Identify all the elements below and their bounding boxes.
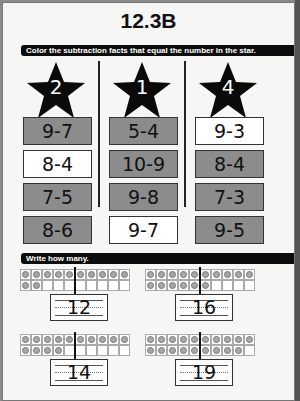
counter-icon [167,269,178,280]
counter-icon [86,269,97,280]
counter-icon [156,269,167,280]
ten-frame-divider [199,267,201,295]
counter-icon [53,269,64,280]
empty-cell [97,345,108,356]
counter-icon [31,345,42,356]
empty-cell [222,280,233,291]
empty-cell [97,280,108,291]
counter-icon [31,334,42,345]
counter-icon [222,334,233,345]
counter-icon [178,280,189,291]
counter-icon [178,269,189,280]
star-column-1: 2 9-7 8-4 7-5 8-6 [3,61,91,201]
answer-box-4[interactable]: 19 [175,359,233,386]
answer-value: 14 [51,361,107,383]
counter-icon [97,269,108,280]
counter-icon [20,345,31,356]
empty-cell [42,280,53,291]
empty-cell [244,345,255,356]
empty-cell [119,345,130,356]
counter-icon [42,334,53,345]
fact-box[interactable]: 5-4 [109,117,178,145]
ten-frame-divider [74,267,76,295]
answer-value: 19 [176,361,232,383]
counter-icon [145,280,156,291]
answer-box-3[interactable]: 14 [50,359,108,386]
counter-icon [75,334,86,345]
empty-cell [233,280,244,291]
counter-icon [200,280,211,291]
page-title: 12.3B [3,9,294,33]
ten-frame-3 [20,334,130,356]
counter-icon [20,269,31,280]
counter-icon [233,269,244,280]
counter-icon [200,269,211,280]
star-icon: 2 [26,61,86,119]
counter-icon [244,334,255,345]
counter-icon [31,280,42,291]
fact-box[interactable]: 7-5 [23,183,92,211]
instruction-bar-1: Color the subtraction facts that equal t… [21,45,294,56]
star-number: 1 [112,75,172,99]
counter-icon [233,334,244,345]
counter-icon [178,334,189,345]
counter-icon [178,345,189,356]
counter-icon [20,280,31,291]
empty-cell [119,280,130,291]
ten-frame-1 [20,269,130,291]
answer-box-2[interactable]: 16 [175,294,233,321]
fact-box[interactable]: 9-5 [195,216,264,244]
counter-icon [97,334,108,345]
empty-cell [108,345,119,356]
empty-cell [244,280,255,291]
counter-icon [200,334,211,345]
fact-box[interactable]: 8-6 [23,216,92,244]
star-icon: 4 [198,61,258,119]
counter-icon [200,345,211,356]
counter-icon [156,280,167,291]
ten-frame-divider [74,332,76,360]
page-shadow [295,0,300,401]
counter-icon [20,334,31,345]
counter-icon [108,269,119,280]
fact-box[interactable]: 10-9 [109,150,178,178]
empty-cell [75,345,86,356]
ten-frame-2 [145,269,255,291]
star-number: 4 [198,75,258,99]
counter-icon [31,269,42,280]
fact-box[interactable]: 8-4 [195,150,264,178]
ten-frame-4 [145,334,255,356]
star-number: 2 [26,75,86,99]
counter-icon [156,345,167,356]
counter-icon [167,345,178,356]
empty-cell [86,280,97,291]
counter-icon [42,269,53,280]
counter-icon [145,334,156,345]
worksheet-page: 12.3B Color the subtraction facts that e… [2,2,295,401]
star-column-3: 4 9-3 8-4 7-3 9-5 [175,61,263,201]
fact-box[interactable]: 9-7 [109,216,178,244]
fact-box[interactable]: 8-4 [23,150,92,178]
empty-cell [53,280,64,291]
answer-box-1[interactable]: 12 [50,294,108,321]
empty-cell [75,280,86,291]
counter-icon [211,345,222,356]
answer-value: 12 [51,296,107,318]
counter-icon [53,345,64,356]
counter-icon [222,345,233,356]
counter-icon [119,334,130,345]
counter-icon [211,334,222,345]
fact-box[interactable]: 7-3 [195,183,264,211]
counter-icon [167,280,178,291]
fact-box[interactable]: 9-3 [195,117,264,145]
answer-value: 16 [176,296,232,318]
fact-box[interactable]: 9-7 [23,117,92,145]
counter-icon [145,269,156,280]
fact-box[interactable]: 9-8 [109,183,178,211]
counter-icon [244,269,255,280]
star-icon: 1 [112,61,172,119]
ten-frame-divider [199,332,201,360]
counter-icon [145,345,156,356]
empty-cell [86,345,97,356]
counter-icon [222,269,233,280]
